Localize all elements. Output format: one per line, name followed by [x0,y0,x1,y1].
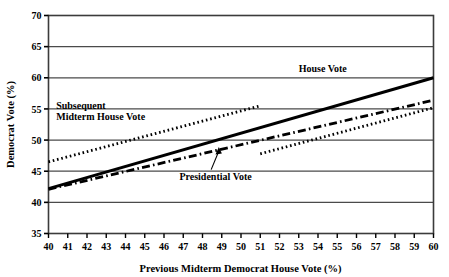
y-tick-label-45: 45 [32,166,42,177]
presidential-vote-label: Presidential Vote [179,171,252,182]
x-tick-label-57: 57 [371,241,381,252]
x-tick-label-44: 44 [121,241,131,252]
x-tick-label-60: 60 [429,241,439,252]
y-tick-label-40: 40 [32,197,42,208]
subsequent-midterm-label-line1: Subsequent [56,100,106,111]
x-axis-title: Previous Midterm Democrat House Vote (%) [140,263,342,275]
y-tick-label-65: 65 [32,41,42,52]
x-tick-label-52: 52 [275,241,285,252]
y-tick-label-35: 35 [32,228,42,239]
subsequent-midterm-label-line2: Midterm House Vote [56,111,145,122]
x-tick-label-48: 48 [198,241,208,252]
y-axis-title: Democrat Vote (%) [5,81,17,168]
x-tick-label-59: 59 [409,241,419,252]
y-tick-label-60: 60 [32,72,42,83]
chart-container: 3540455055606570 40414243444546474849505… [0,0,449,277]
x-tick-label-49: 49 [217,241,227,252]
chart-svg: 3540455055606570 40414243444546474849505… [0,0,449,277]
house-vote-label: House Vote [299,63,348,74]
y-tick-label-55: 55 [32,104,42,115]
x-tick-label-53: 53 [294,241,304,252]
x-tick-label-47: 47 [178,241,188,252]
x-tick-label-42: 42 [82,241,92,252]
x-tick-label-58: 58 [390,241,400,252]
x-tick-label-54: 54 [313,241,323,252]
x-tick-label-41: 41 [63,241,73,252]
y-tick-label-70: 70 [32,10,42,21]
x-tick-label-56: 56 [352,241,362,252]
x-tick-label-51: 51 [255,241,265,252]
x-tick-label-40: 40 [44,241,54,252]
x-tick-label-50: 50 [236,241,246,252]
y-tick-label-50: 50 [32,135,42,146]
x-tick-label-43: 43 [101,241,111,252]
x-tick-label-55: 55 [332,241,342,252]
x-tick-label-46: 46 [159,241,169,252]
x-tick-label-45: 45 [140,241,150,252]
